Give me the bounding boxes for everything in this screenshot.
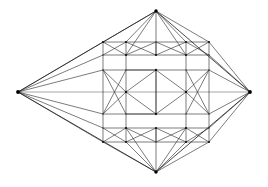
- vertex-left-apex: [16, 90, 20, 94]
- wireframe-diagram: [0, 0, 268, 187]
- vertex-node: [125, 127, 127, 129]
- vertex-top-apex: [154, 9, 157, 12]
- figure-canvas: [0, 0, 268, 187]
- vertex-node: [185, 141, 187, 143]
- vertex-node: [185, 127, 187, 129]
- vertex-node: [155, 127, 157, 129]
- vertex-node: [208, 141, 210, 143]
- vertex-node: [208, 41, 210, 43]
- vertex-node: [102, 141, 104, 143]
- vertex-node: [185, 54, 187, 56]
- vertex-node: [155, 54, 157, 56]
- vertex-node: [185, 41, 187, 43]
- vertex-node: [102, 41, 104, 43]
- vertex-node: [125, 91, 127, 93]
- vertex-node: [125, 141, 127, 143]
- vertex-node: [155, 113, 157, 115]
- vertex-node: [125, 54, 127, 56]
- vertex-node: [125, 41, 127, 43]
- vertex-right-apex: [248, 90, 252, 94]
- vertex-node: [155, 69, 157, 71]
- vertex-node: [185, 91, 187, 93]
- vertex-bottom-apex: [154, 170, 157, 173]
